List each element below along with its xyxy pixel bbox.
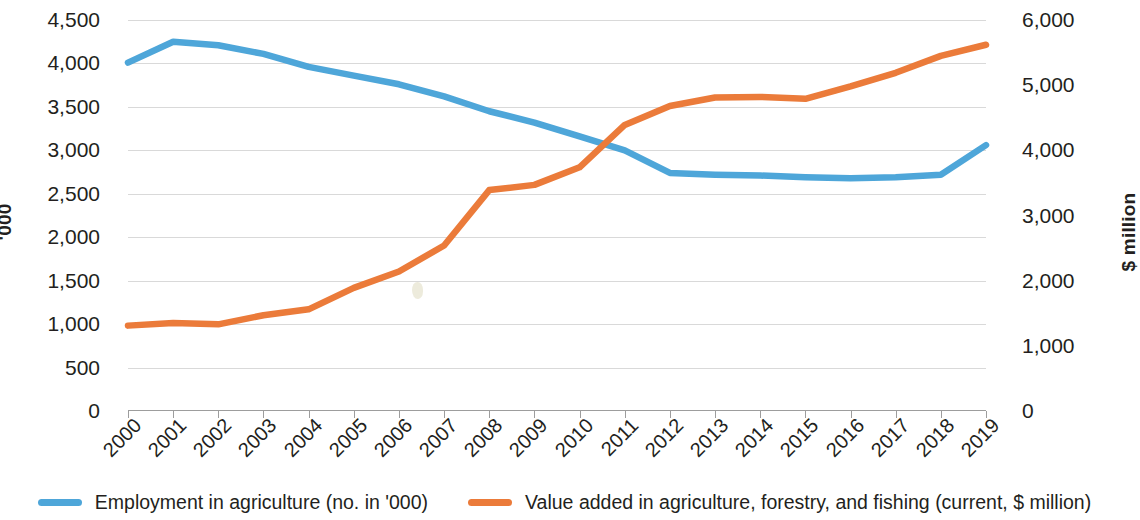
- y-axis-right-title: $ million: [1118, 193, 1140, 272]
- y-axis-left-tick-label: 3,000: [47, 139, 100, 160]
- legend-swatch-icon: [38, 499, 82, 506]
- y-axis-left-ticks: 05001,0001,5002,0002,5003,0003,5004,0004…: [30, 0, 100, 430]
- legend-label: Value added in agriculture, forestry, an…: [525, 491, 1091, 514]
- x-axis-tick-label: 2015: [764, 414, 824, 474]
- x-axis-tick-label: 2006: [357, 414, 417, 474]
- series-lines: [128, 20, 986, 411]
- x-axis-tick-label: 2019: [944, 414, 1004, 474]
- y-axis-left-tick-label: 2,000: [47, 226, 100, 247]
- legend-swatch-icon: [468, 499, 512, 506]
- y-axis-right-tick-label: 3,000: [1022, 205, 1075, 226]
- x-axis-ticks: 2000200120022003200420052006200720082009…: [128, 414, 986, 480]
- series-line: [128, 45, 986, 326]
- x-axis-tick-label: 2004: [267, 414, 327, 474]
- legend-label: Employment in agriculture (no. in '000): [95, 491, 428, 514]
- y-axis-left-tick-label: 1,000: [47, 313, 100, 334]
- x-axis-tick-label: 2013: [673, 414, 733, 474]
- chart-legend: Employment in agriculture (no. in '000)V…: [0, 484, 1129, 520]
- x-axis-tick-label: 2010: [538, 414, 598, 474]
- paper-smudge: [412, 282, 423, 299]
- y-axis-left-tick-label: 2,500: [47, 183, 100, 204]
- legend-item[interactable]: Employment in agriculture (no. in '000): [38, 491, 428, 514]
- y-axis-left-tick-label: 3,500: [47, 96, 100, 117]
- y-axis-left-tick-label: 1,500: [47, 270, 100, 291]
- y-axis-left-tick-label: 500: [65, 357, 100, 378]
- y-axis-right-tick-label: 6,000: [1022, 9, 1075, 30]
- y-axis-right-ticks: 01,0002,0003,0004,0005,0006,000: [1022, 0, 1092, 430]
- y-axis-left-tick-label: 4,500: [47, 9, 100, 30]
- plot-area: [128, 20, 986, 411]
- y-axis-right-tick-label: 4,000: [1022, 139, 1075, 160]
- y-axis-right-tick-label: 1,000: [1022, 335, 1075, 356]
- x-axis-tick-label: 2003: [222, 414, 282, 474]
- x-axis-tick-label: 2007: [402, 414, 462, 474]
- x-axis-tick-label: 2009: [493, 414, 553, 474]
- y-axis-left-tick-label: 4,000: [47, 52, 100, 73]
- legend-item[interactable]: Value added in agriculture, forestry, an…: [468, 491, 1091, 514]
- y-axis-right-tick-label: 2,000: [1022, 270, 1075, 291]
- series-line: [128, 42, 986, 178]
- y-axis-left-tick-label: 0: [88, 400, 100, 421]
- y-axis-left-title: '000: [0, 203, 16, 240]
- y-axis-right-tick-label: 0: [1022, 400, 1034, 421]
- y-axis-right-tick-label: 5,000: [1022, 74, 1075, 95]
- x-axis-tick-label: 2012: [628, 414, 688, 474]
- x-axis-tick-label: 2016: [809, 414, 869, 474]
